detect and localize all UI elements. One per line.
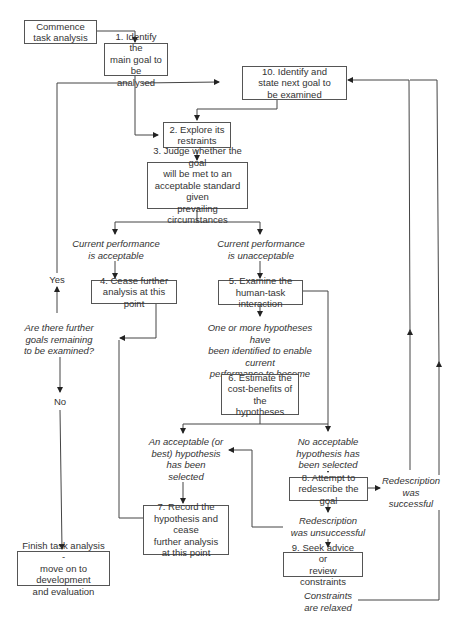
node-9-seek-advice: 9. Seek advice or review constraints <box>283 552 363 577</box>
label-no-hypothesis: No acceptable hypothesis has been select… <box>292 436 364 471</box>
node-10-identify-next-goal: 10. Identify and state next goal to be e… <box>242 66 347 100</box>
label-constraints-relaxed: Constraints are relaxed <box>298 590 358 613</box>
label-performance-acceptable: Current performance is acceptable <box>72 238 160 261</box>
node-4-cease-analysis: 4. Cease further analysis at this point <box>91 280 177 304</box>
flowchart: Commence task analysis 1. Identify the m… <box>0 0 458 623</box>
node-finish-task-analysis: Finish task analysis - move on to develo… <box>17 551 110 586</box>
label-yes: Yes <box>45 274 69 286</box>
node-1-identify-main-goal: 1. Identify the main goal to be analysed <box>104 43 168 76</box>
node-2-explore-restraints: 2. Explore its restraints <box>163 122 231 148</box>
node-3-judge-goal: 3. Judge whether the goal will be met to… <box>147 162 248 209</box>
node-6-estimate-cost-benefits: 6. Estimate the cost-benefits of the hyp… <box>221 374 299 415</box>
label-further-goals-question: Are there further goals remaining to be … <box>4 322 114 357</box>
label-redescription-successful: Redescription was successful <box>381 475 441 510</box>
connectors <box>0 0 458 623</box>
label-performance-unacceptable: Current performance is unacceptable <box>215 238 307 261</box>
node-7-record-hypothesis: 7. Record the hypothesis and cease furth… <box>143 505 229 555</box>
label-hypothesis-selected: An acceptable (or best) hypothesis has b… <box>148 436 224 482</box>
label-redescription-unsuccessful: Redescription was unsuccessful <box>288 515 368 538</box>
node-5-examine-interaction: 5. Examine the human-task interaction <box>218 280 303 305</box>
label-no: No <box>50 396 70 408</box>
node-8-redescribe-goal: 8. Attempt to redescribe the goal <box>289 477 368 501</box>
node-start: Commence task analysis <box>24 20 97 44</box>
